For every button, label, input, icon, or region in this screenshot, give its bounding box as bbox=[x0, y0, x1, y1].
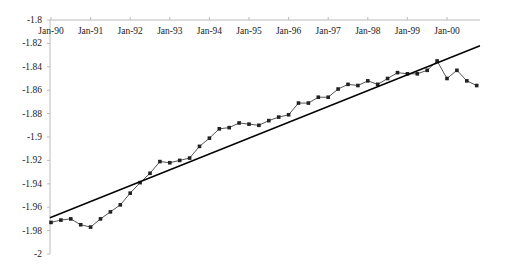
data-point-marker bbox=[49, 221, 53, 225]
data-point-marker bbox=[425, 69, 429, 73]
data-point-marker bbox=[287, 113, 291, 117]
data-point-marker bbox=[119, 203, 123, 207]
data-point-marker bbox=[267, 119, 271, 123]
data-point-marker bbox=[386, 77, 390, 81]
y-tick-label: -1.98 bbox=[22, 226, 42, 236]
x-tick-label: Jan-00 bbox=[434, 26, 460, 36]
data-point-marker bbox=[218, 127, 222, 131]
y-tick-label: -1.84 bbox=[22, 62, 42, 72]
series-layer bbox=[49, 46, 480, 229]
x-tick-label: Jan-93 bbox=[157, 26, 183, 36]
x-axis: Jan-90Jan-91Jan-92Jan-93Jan-94Jan-95Jan-… bbox=[38, 17, 480, 36]
x-tick-label: Jan-91 bbox=[78, 26, 104, 36]
data-point-marker bbox=[188, 156, 192, 160]
data-point-marker bbox=[79, 223, 83, 227]
trend-line bbox=[50, 46, 480, 218]
y-tick-label: -1.82 bbox=[22, 38, 42, 48]
x-tick-label: Jan-95 bbox=[236, 26, 262, 36]
data-point-marker bbox=[475, 84, 479, 88]
y-tick-label: -2 bbox=[34, 249, 42, 259]
data-point-marker bbox=[69, 217, 73, 221]
x-tick-label: Jan-98 bbox=[355, 26, 381, 36]
data-point-marker bbox=[317, 95, 321, 99]
data-point-marker bbox=[445, 77, 449, 81]
actual-series-line bbox=[51, 61, 477, 227]
data-point-marker bbox=[326, 95, 330, 99]
y-tick-label: -1.92 bbox=[22, 155, 42, 165]
y-tick-label: -1.8 bbox=[27, 15, 42, 25]
data-point-marker bbox=[307, 101, 311, 105]
data-point-marker bbox=[198, 145, 202, 149]
data-point-marker bbox=[297, 101, 301, 105]
data-point-marker bbox=[99, 217, 103, 221]
data-point-marker bbox=[89, 225, 93, 229]
y-tick-label: -1.96 bbox=[22, 202, 42, 212]
x-tick-label: Jan-97 bbox=[316, 26, 342, 36]
data-point-marker bbox=[356, 84, 360, 88]
data-point-marker bbox=[109, 210, 113, 214]
x-tick-label: Jan-99 bbox=[395, 26, 421, 36]
line-chart: -1.8-1.82-1.84-1.86-1.88-1.9-1.92-1.94-1… bbox=[0, 0, 505, 273]
data-point-marker bbox=[168, 161, 172, 165]
x-tick-label: Jan-94 bbox=[197, 26, 223, 36]
data-point-marker bbox=[128, 191, 132, 195]
data-point-marker bbox=[416, 72, 420, 76]
data-point-marker bbox=[257, 124, 261, 128]
data-point-marker bbox=[208, 136, 212, 140]
data-point-marker bbox=[59, 218, 63, 222]
y-tick-label: -1.94 bbox=[22, 179, 42, 189]
data-point-marker bbox=[148, 171, 152, 175]
y-tick-label: -1.86 bbox=[22, 85, 42, 95]
data-point-marker bbox=[465, 79, 469, 83]
data-point-marker bbox=[396, 71, 400, 75]
x-tick-label: Jan-90 bbox=[38, 26, 64, 36]
y-tick-label: -1.9 bbox=[27, 132, 42, 142]
data-point-marker bbox=[227, 126, 231, 130]
data-point-marker bbox=[158, 160, 162, 164]
data-point-marker bbox=[247, 122, 251, 126]
data-point-marker bbox=[346, 83, 350, 87]
x-tick-label: Jan-92 bbox=[118, 26, 144, 36]
x-tick-label: Jan-96 bbox=[276, 26, 302, 36]
data-point-marker bbox=[455, 69, 459, 73]
y-tick-label: -1.88 bbox=[22, 109, 42, 119]
data-point-marker bbox=[277, 115, 281, 119]
data-point-marker bbox=[366, 79, 370, 83]
data-point-marker bbox=[178, 159, 182, 163]
data-point-marker bbox=[237, 121, 241, 125]
data-point-marker bbox=[336, 87, 340, 91]
y-axis: -1.8-1.82-1.84-1.86-1.88-1.9-1.92-1.94-1… bbox=[22, 15, 50, 259]
